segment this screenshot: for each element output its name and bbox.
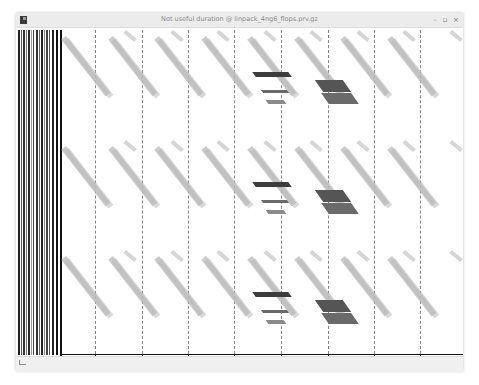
title-bar[interactable]: Not useful duration @ linpack_4ng6_flops… (16, 13, 463, 28)
paraver-timeline-window: Not useful duration @ linpack_4ng6_flops… (16, 13, 463, 371)
burst-bar (39, 30, 40, 355)
burst-stripe (263, 250, 276, 262)
burst-stripe (123, 250, 136, 262)
burst-stripe (123, 140, 136, 152)
burst-stripe (157, 38, 206, 98)
dark-burst (266, 210, 287, 214)
burst-stripe (309, 30, 322, 42)
dark-burst (315, 80, 351, 92)
burst-stripe (111, 38, 160, 98)
burst-stripe (343, 148, 392, 208)
burst-stripe (309, 140, 322, 152)
burst-stripe (390, 148, 439, 208)
burst-bar (36, 30, 38, 355)
burst-stripe (263, 140, 276, 152)
burst-stripe (111, 258, 160, 318)
burst-bar (23, 30, 25, 355)
burst-bar (28, 30, 30, 355)
burst-stripe (170, 30, 183, 42)
burst-stripe (402, 250, 415, 262)
dark-burst (266, 100, 287, 104)
burst-bar (31, 30, 32, 355)
resize-grip-icon[interactable] (19, 360, 26, 365)
burst-stripe (390, 258, 439, 318)
minimize-button[interactable]: – (431, 15, 439, 25)
dark-burst (315, 300, 351, 312)
close-button[interactable]: × (452, 15, 460, 25)
burst-stripe (216, 30, 229, 42)
burst-bar (44, 30, 45, 355)
burst-stripe (204, 258, 253, 318)
burst-stripe (263, 30, 276, 42)
burst-bar (46, 30, 48, 355)
dark-burst (321, 203, 359, 214)
burst-bar (21, 30, 22, 355)
burst-bar (26, 30, 27, 355)
dark-burst (266, 320, 287, 324)
burst-stripe (449, 250, 462, 262)
dark-burst (315, 190, 351, 202)
burst-bar (52, 30, 54, 355)
y-axis-line (60, 30, 62, 356)
burst-stripe (343, 258, 392, 318)
burst-stripe (64, 148, 113, 208)
burst-bar (33, 30, 34, 355)
burst-stripe (449, 140, 462, 152)
burst-stripe (64, 258, 113, 318)
dark-burst (261, 90, 289, 93)
burst-stripe (204, 148, 253, 208)
burst-stripe (170, 140, 183, 152)
burst-stripe (157, 148, 206, 208)
window-title: Not useful duration @ linpack_4ng6_flops… (16, 15, 463, 23)
dark-burst (252, 292, 292, 297)
burst-stripe (64, 38, 113, 98)
burst-stripe (343, 38, 392, 98)
dark-burst (261, 200, 289, 203)
burst-stripe (356, 140, 369, 152)
burst-stripe (402, 140, 415, 152)
dark-burst (321, 93, 359, 104)
burst-stripe (157, 258, 206, 318)
maximize-button[interactable]: ▫ (441, 15, 449, 25)
timeline-plot-area[interactable]: 974686688,46 ns 988724616,26 ns 99689596… (16, 28, 463, 355)
burst-bar (49, 30, 50, 355)
burst-stripe (402, 30, 415, 42)
status-bar (16, 356, 463, 372)
burst-stripe (216, 250, 229, 262)
burst-stripe (390, 38, 439, 98)
burst-stripe (204, 38, 253, 98)
burst-stripe (309, 250, 322, 262)
dark-burst (252, 72, 292, 77)
burst-stripe (216, 140, 229, 152)
burst-stripe (356, 250, 369, 262)
dark-burst (321, 313, 359, 324)
burst-stripe (170, 250, 183, 262)
burst-stripe (356, 30, 369, 42)
initial-dense-bursts (18, 30, 60, 355)
x-axis-line (60, 354, 463, 355)
dark-burst (252, 182, 292, 187)
burst-bar (41, 30, 43, 355)
burst-stripe (111, 148, 160, 208)
burst-stripe (449, 30, 462, 42)
burst-bar (56, 30, 58, 355)
dark-burst (261, 310, 289, 313)
burst-stripe (123, 30, 136, 42)
burst-bar (18, 30, 20, 355)
